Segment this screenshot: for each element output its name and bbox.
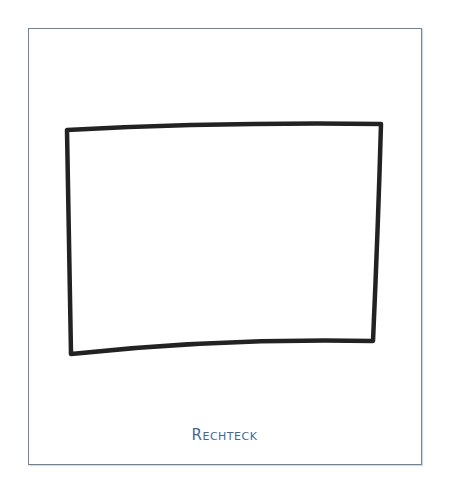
rectangle-sketch [0,0,449,499]
figure-caption: Rechteck [0,426,449,444]
